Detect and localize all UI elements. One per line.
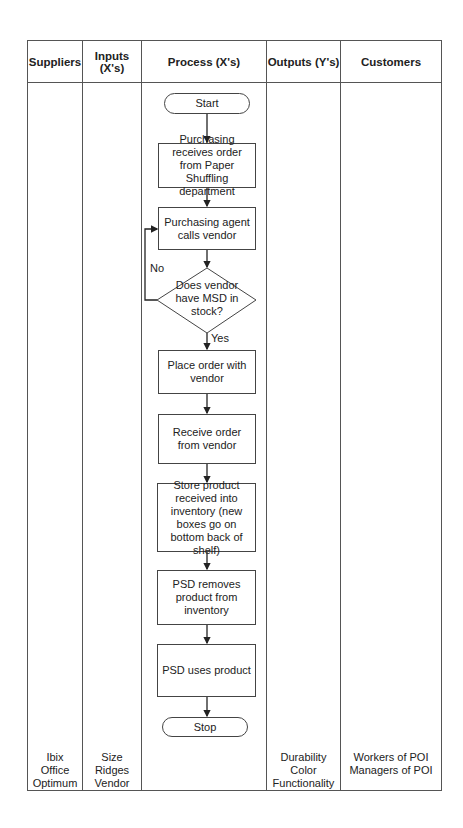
step-store-product: Store product received into inventory (n… [157, 483, 256, 552]
no-label: No [150, 262, 164, 274]
step-psd-uses: PSD uses product [157, 644, 256, 697]
stop-terminal: Stop [162, 717, 248, 737]
step-call-vendor: Purchasing agent calls vendor [158, 207, 256, 250]
step-psd-removes: PSD removes product from inventory [157, 570, 256, 625]
yes-label: Yes [211, 332, 229, 344]
step-receive-from-vendor: Receive order from vendor [158, 414, 256, 464]
step-place-order: Place order with vendor [158, 350, 256, 394]
step-receive-order: Purchasing receives order from Paper Shu… [158, 143, 256, 188]
start-terminal: Start [164, 93, 250, 114]
decision-text: Does vendor have MSD in stock? [168, 279, 246, 318]
